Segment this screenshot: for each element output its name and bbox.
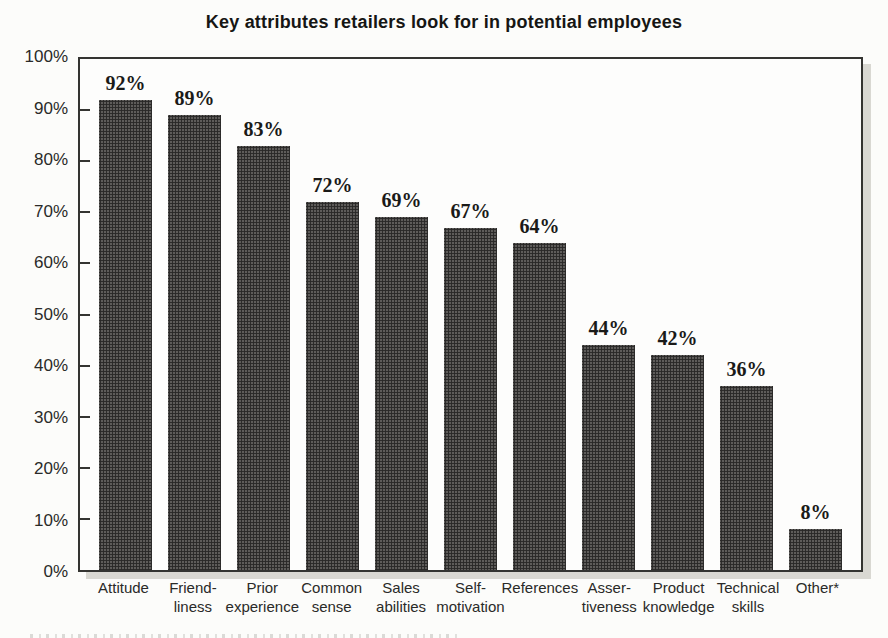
bar-group: 72% [306,59,359,570]
bar-value-label: 67% [451,200,491,223]
bar-group: 64% [513,59,566,570]
bar-group: 67% [444,59,497,570]
bar-rect [582,345,635,570]
y-tick-label: 0% [43,562,68,582]
bar-group: 36% [720,59,773,570]
x-label-line: tiveness [582,597,637,616]
x-label-group: Common sense [305,578,358,616]
x-label-group: Product knowledge [652,578,705,616]
y-tick-label: 60% [34,253,68,273]
bar-value-label: 8% [801,501,831,524]
bar-rect [513,243,566,570]
bar-value-label: 89% [175,87,215,110]
bar-value-label: 92% [106,72,146,95]
x-label-group: Technical skills [722,578,775,616]
bar-group: 92% [99,59,152,570]
bar-group: 89% [168,59,221,570]
bar-value-label: 42% [658,327,698,350]
x-label-line: experience [226,597,299,616]
x-label-group: Asser- tiveness [583,578,636,616]
y-axis-labels: 100% 90% 80% 70% 60% 50% 40% 30% 20% 10%… [0,47,68,582]
y-tick-label: 30% [34,408,68,428]
bar-rect [651,355,704,570]
bar-group: 8% [789,59,842,570]
x-label-line: Prior [246,578,278,597]
bars-row: 92% 89% 83% 72% 69% 67% 64% 44% [80,59,861,570]
y-tick-label: 50% [34,305,68,325]
bar-rect [720,386,773,570]
x-label-line: Friend- [169,578,217,597]
bar-value-label: 44% [589,317,629,340]
x-axis-labels: Attitude Friend- liness Prior experience… [78,578,863,616]
cropped-footnote-remnant [30,634,460,638]
x-label-line: Common [301,578,362,597]
plot-area: 92% 89% 83% 72% 69% 67% 64% 44% [78,57,863,572]
x-label-line: abilities [376,597,426,616]
bar-value-label: 64% [520,215,560,238]
x-label-group: Attitude [97,578,150,616]
bar-group: 69% [375,59,428,570]
bar-rect [789,529,842,570]
chart-title: Key attributes retailers look for in pot… [0,12,888,33]
y-tick-label: 70% [34,202,68,222]
bar-rect [168,115,221,570]
y-tick-label: 90% [34,99,68,119]
bar-rect [375,217,428,570]
x-label-line: References [501,578,578,597]
x-label-group: Self- motivation [444,578,497,616]
page: { "title": "Key attributes retailers loo… [0,0,888,638]
y-tick-label: 40% [34,356,68,376]
x-label-line: Self- [455,578,486,597]
x-label-line: Technical [717,578,780,597]
bar-value-label: 36% [727,358,767,381]
y-tick-label: 100% [25,47,68,67]
y-tick-label: 10% [34,511,68,531]
bar-value-label: 83% [244,118,284,141]
bar-group: 44% [582,59,635,570]
x-label-group: Friend- liness [166,578,219,616]
x-label-line: Attitude [98,578,149,597]
bar-rect [306,202,359,570]
bar-value-label: 72% [313,174,353,197]
x-label-line: Sales [382,578,420,597]
bar-rect [237,146,290,570]
x-label-line: motivation [436,597,504,616]
x-label-line: liness [174,597,212,616]
x-label-group: Prior experience [236,578,289,616]
x-label-group: Other* [791,578,844,616]
y-tick-label: 80% [34,150,68,170]
bar-group: 42% [651,59,704,570]
x-label-line: knowledge [643,597,715,616]
x-label-line: Other* [796,578,839,597]
bar-value-label: 69% [382,189,422,212]
x-label-line: Product [653,578,705,597]
x-label-group: Sales abilities [375,578,428,616]
bar-group: 83% [237,59,290,570]
bar-rect [99,100,152,570]
bar-rect [444,228,497,570]
x-label-line: sense [312,597,352,616]
x-label-line: Asser- [588,578,631,597]
y-tick-label: 20% [34,459,68,479]
x-label-group: References [513,578,566,616]
x-label-line: skills [732,597,765,616]
